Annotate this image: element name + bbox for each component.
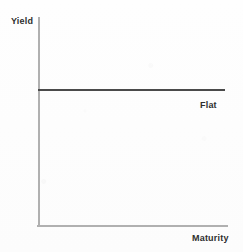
- paper-texture: [0, 0, 243, 252]
- y-axis-label: Yield: [11, 16, 33, 26]
- x-axis-label: Maturity: [192, 233, 229, 243]
- flat-yield-curve-line: [38, 89, 225, 91]
- y-axis-line: [38, 17, 40, 227]
- yield-curve-figure: Yield Maturity Flat: [0, 0, 243, 252]
- x-axis-line: [37, 225, 228, 227]
- curve-annotation-flat: Flat: [200, 100, 217, 110]
